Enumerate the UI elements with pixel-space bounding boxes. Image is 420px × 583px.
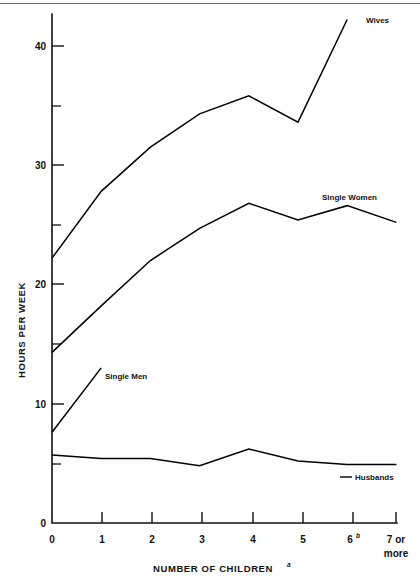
x-tick-label-7-line1: 7 or bbox=[387, 534, 405, 545]
x-tick-label-2: 2 bbox=[149, 534, 155, 545]
y-tick-label-40: 40 bbox=[35, 41, 47, 52]
x-tick-label-3: 3 bbox=[199, 534, 205, 545]
y-axis-minor-ticks bbox=[52, 106, 61, 464]
x-tick-label-0: 0 bbox=[49, 534, 55, 545]
y-tick-label-0: 0 bbox=[40, 518, 46, 529]
x-tick-label-5: 5 bbox=[300, 534, 306, 545]
x-axis-title: NUMBER OF CHILDREN bbox=[153, 563, 273, 574]
y-axis-title: HOURS PER WEEK bbox=[16, 282, 27, 378]
series-line-single-women bbox=[52, 203, 396, 352]
series-label-wives: Wives bbox=[366, 16, 390, 25]
series-line-wives bbox=[52, 20, 347, 259]
x-axis-ticks bbox=[102, 512, 396, 523]
axis-lines bbox=[52, 14, 397, 523]
line-chart-figure: 40 30 20 10 0 HOURS PER WEEK 0 1 2 3 4 5… bbox=[0, 0, 420, 583]
y-tick-label-10: 10 bbox=[35, 399, 47, 410]
series-label-husbands: Husbands bbox=[355, 473, 394, 482]
x-tick-label-7-line2: more bbox=[384, 548, 409, 559]
x-tick-label-4: 4 bbox=[250, 534, 256, 545]
series-line-husbands bbox=[52, 449, 396, 466]
series-label-single-men: Single Men bbox=[105, 372, 147, 381]
series-label-single-women: Single Women bbox=[322, 193, 377, 202]
x-tick-label-6-superscript: b bbox=[356, 532, 360, 539]
y-tick-label-30: 30 bbox=[35, 160, 47, 171]
x-tick-label-6: 6 bbox=[347, 534, 353, 545]
chart-canvas: 40 30 20 10 0 HOURS PER WEEK 0 1 2 3 4 5… bbox=[0, 0, 420, 583]
x-tick-label-1: 1 bbox=[99, 534, 105, 545]
y-tick-label-20: 20 bbox=[35, 279, 47, 290]
x-axis-title-superscript: a bbox=[287, 561, 291, 568]
series-line-single-men bbox=[52, 368, 101, 432]
